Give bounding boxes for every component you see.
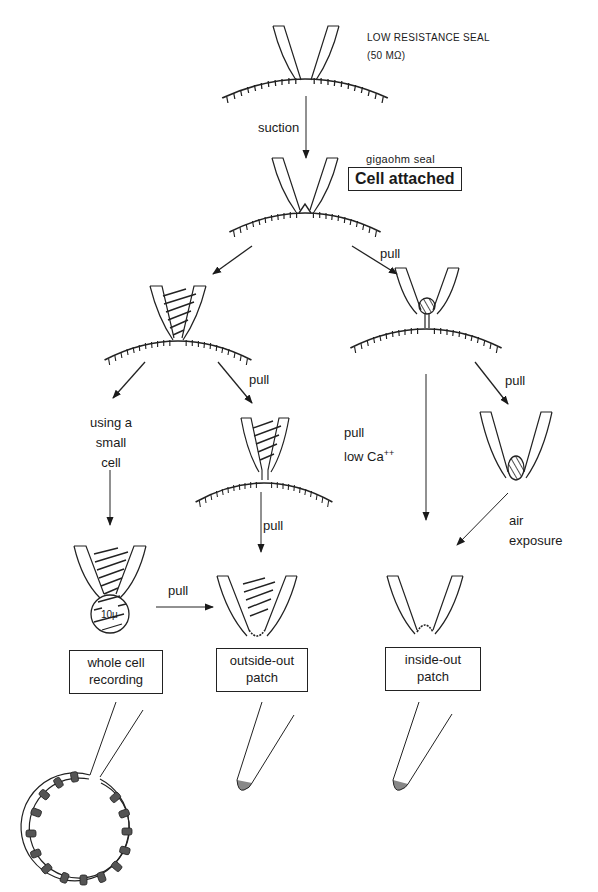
low-seal-value: (50 MΩ) bbox=[367, 48, 405, 64]
low-seal-pipette bbox=[273, 26, 339, 80]
outside-out-tip bbox=[237, 702, 294, 790]
scale-label: 10μ bbox=[101, 607, 118, 623]
whole-cell-recording-box: whole cell recording bbox=[69, 650, 163, 694]
pull-label-top-right: pull bbox=[380, 246, 400, 262]
low-ca-text: low Ca bbox=[344, 449, 384, 464]
pull-label-outside: pull bbox=[263, 518, 283, 534]
air-label: air bbox=[509, 513, 523, 529]
ca-superscript: ++ bbox=[384, 448, 395, 458]
using-small-cell-3: cell bbox=[80, 455, 142, 471]
outside-out-patch-box: outside-out patch bbox=[216, 648, 308, 692]
whole-cell-line1: whole cell bbox=[70, 654, 162, 671]
gigaohm-label: gigaohm seal bbox=[366, 151, 435, 167]
suction-label: suction bbox=[258, 120, 299, 136]
low-seal-label: LOW RESISTANCE SEAL bbox=[367, 30, 490, 46]
pull-label-horizontal: pull bbox=[168, 583, 188, 599]
pull-label-mid-left: pull bbox=[249, 372, 269, 388]
outside-out-line1: outside-out bbox=[217, 652, 307, 669]
outside-out-line2: patch bbox=[217, 669, 307, 686]
pull-low-ca-2: low Ca++ bbox=[344, 445, 394, 465]
whole-cell-ring bbox=[21, 702, 143, 885]
inside-out-patch-box: inside-out patch bbox=[385, 647, 481, 691]
pull-low-ca-1: pull bbox=[344, 425, 364, 441]
pull-label-mid-right: pull bbox=[505, 373, 525, 389]
cell-attached-box: Cell attached bbox=[348, 167, 462, 191]
exposure-label: exposure bbox=[509, 533, 562, 549]
using-small-cell-1: using a bbox=[80, 415, 142, 431]
using-small-cell-2: small bbox=[80, 435, 142, 451]
whole-cell-line2: recording bbox=[70, 671, 162, 688]
inside-out-line1: inside-out bbox=[386, 651, 480, 668]
inside-out-tip bbox=[393, 702, 452, 790]
inside-out-line2: patch bbox=[386, 668, 480, 685]
